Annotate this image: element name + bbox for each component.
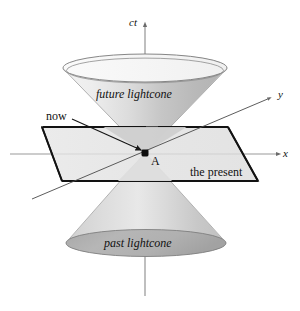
- now-label: now: [46, 110, 67, 122]
- past-lightcone-label: past lightcone: [104, 237, 172, 249]
- time-axis-label: ct: [129, 17, 137, 28]
- event-point-label: A: [151, 155, 160, 167]
- present-plane-label: the present: [190, 166, 242, 178]
- lightcone-figure: ct x y future lightcone past lightcone n…: [0, 0, 300, 311]
- future-lightcone-label: future lightcone: [96, 88, 172, 100]
- event-point-a: [142, 150, 149, 157]
- lightcone-diagram-svg: [0, 0, 300, 311]
- y-axis-label: y: [278, 89, 283, 100]
- x-axis-label: x: [283, 148, 288, 159]
